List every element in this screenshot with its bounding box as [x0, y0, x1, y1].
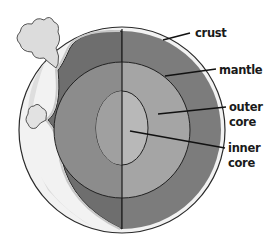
label-crust: crust	[195, 26, 227, 40]
crust-leader-line	[163, 33, 190, 40]
label-inner-core-2: core	[228, 156, 255, 170]
earth-layers-diagram: crust mantle outer core inner core	[0, 0, 273, 237]
label-inner-core-1: inner	[228, 141, 261, 155]
volcano-plume-top	[17, 17, 60, 68]
label-outer-core-1: outer	[229, 100, 263, 114]
label-outer-core-2: core	[229, 115, 256, 129]
label-mantle: mantle	[219, 63, 263, 77]
